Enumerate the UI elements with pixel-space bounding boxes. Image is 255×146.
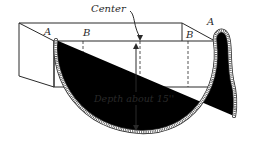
center-arrowhead-icon: [137, 35, 143, 41]
mark-b-left-label: B: [82, 27, 90, 38]
corner-a-right-label: A: [206, 16, 214, 27]
tape-measure: [56, 31, 236, 132]
center-leader-line: [130, 11, 140, 38]
depth-label: Depth about 15'': [93, 93, 174, 104]
center-pointer: [130, 11, 143, 41]
box-tape-diagram: Center A B B A Depth about 15'': [0, 0, 255, 146]
center-label: Center: [91, 3, 127, 14]
corner-a-left-label: A: [43, 26, 51, 37]
mark-b-right-label: B: [185, 29, 193, 40]
depth-arrowhead-up-icon: [133, 43, 139, 49]
